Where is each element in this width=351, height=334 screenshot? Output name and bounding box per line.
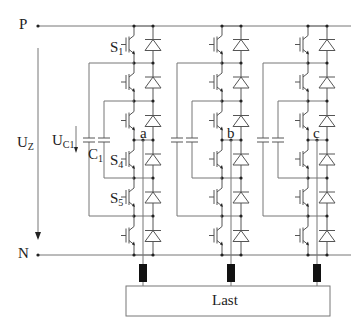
diode-icon <box>319 77 335 88</box>
igbt-collector <box>217 36 222 40</box>
uz-arrow-head-icon <box>35 232 41 240</box>
junction-dot <box>325 61 328 64</box>
label-phase-c: c <box>313 126 320 141</box>
junction-dot <box>239 61 242 64</box>
diode-icon <box>319 192 335 203</box>
junction-dot <box>306 253 309 256</box>
igbt-collector <box>303 112 308 116</box>
capacitor-gap <box>186 138 198 142</box>
inductor-icon <box>227 264 235 282</box>
igbt-collector <box>129 227 134 231</box>
diode-icon <box>319 40 335 51</box>
junction-dot <box>306 138 309 141</box>
junction-dot <box>151 253 154 256</box>
junction-dot <box>239 253 242 256</box>
label-phase-a: a <box>140 126 147 141</box>
junction-dot <box>132 253 135 256</box>
capacitor-gap <box>98 138 110 142</box>
igbt-collector <box>217 73 222 77</box>
diode-icon <box>145 192 161 203</box>
schematic <box>0 0 351 334</box>
diode-icon <box>319 154 335 165</box>
igbt-collector <box>303 36 308 40</box>
junction-dot <box>151 138 154 141</box>
label-c1: C1 <box>88 147 103 164</box>
diode-icon <box>233 154 249 165</box>
junction-dot <box>325 99 328 102</box>
uc1-arrow-head-icon <box>74 147 78 153</box>
capacitor-gap <box>272 138 284 142</box>
igbt-collector <box>303 150 308 154</box>
igbt-collector <box>129 150 134 154</box>
igbt-collector <box>303 73 308 77</box>
junction-dot <box>151 214 154 217</box>
diode-icon <box>233 40 249 51</box>
junction-dot <box>220 24 223 27</box>
inductor-icon <box>139 264 147 282</box>
igbt-collector <box>217 227 222 231</box>
label-s5: S5 <box>110 191 123 208</box>
junction-dot <box>239 176 242 179</box>
label-s4: S4 <box>110 153 123 170</box>
label-n-rail: N <box>18 246 29 261</box>
junction-dot <box>325 214 328 217</box>
igbt-collector <box>217 112 222 116</box>
label-phase-b: b <box>227 126 235 141</box>
capacitor-gap <box>83 138 95 142</box>
junction-dot <box>220 253 223 256</box>
junction-dot <box>151 61 154 64</box>
igbt-collector <box>217 188 222 192</box>
label-load: Last <box>212 293 238 308</box>
junction-dot <box>132 138 135 141</box>
junction-dot <box>325 176 328 179</box>
igbt-collector <box>303 188 308 192</box>
igbt-collector <box>129 112 134 116</box>
capacitor-gap <box>171 138 183 142</box>
label-p-rail: P <box>19 17 27 32</box>
junction-dot <box>239 138 242 141</box>
igbt-collector <box>129 188 134 192</box>
diode-icon <box>145 40 161 51</box>
junction-dot <box>325 138 328 141</box>
junction-dot <box>36 24 39 27</box>
diode-icon <box>145 116 161 127</box>
diode-icon <box>233 116 249 127</box>
diode-icon <box>145 77 161 88</box>
junction-dot <box>239 99 242 102</box>
diode-icon <box>233 231 249 242</box>
igbt-collector <box>129 73 134 77</box>
junction-dot <box>151 99 154 102</box>
label-uz: UZ <box>17 135 34 152</box>
junction-dot <box>325 24 328 27</box>
junction-dot <box>325 253 328 256</box>
diode-icon <box>233 192 249 203</box>
junction-dot <box>220 138 223 141</box>
diode-icon <box>233 77 249 88</box>
junction-dot <box>239 24 242 27</box>
diode-icon <box>319 116 335 127</box>
diode-icon <box>145 231 161 242</box>
label-uc1: UC1 <box>52 133 75 150</box>
inductor-icon <box>313 264 321 282</box>
igbt-collector <box>217 150 222 154</box>
junction-dot <box>132 24 135 27</box>
capacitor-gap <box>257 138 269 142</box>
junction-dot <box>36 253 39 256</box>
circuit-diagram: P N UZ UC1 C1 S1 S4 S5 a b c Last <box>0 0 351 334</box>
label-s1: S1 <box>110 40 123 57</box>
junction-dot <box>151 24 154 27</box>
igbt-collector <box>129 36 134 40</box>
junction-dot <box>306 24 309 27</box>
junction-dot <box>151 176 154 179</box>
diode-icon <box>145 154 161 165</box>
junction-dot <box>239 214 242 217</box>
diode-icon <box>319 231 335 242</box>
igbt-collector <box>303 227 308 231</box>
